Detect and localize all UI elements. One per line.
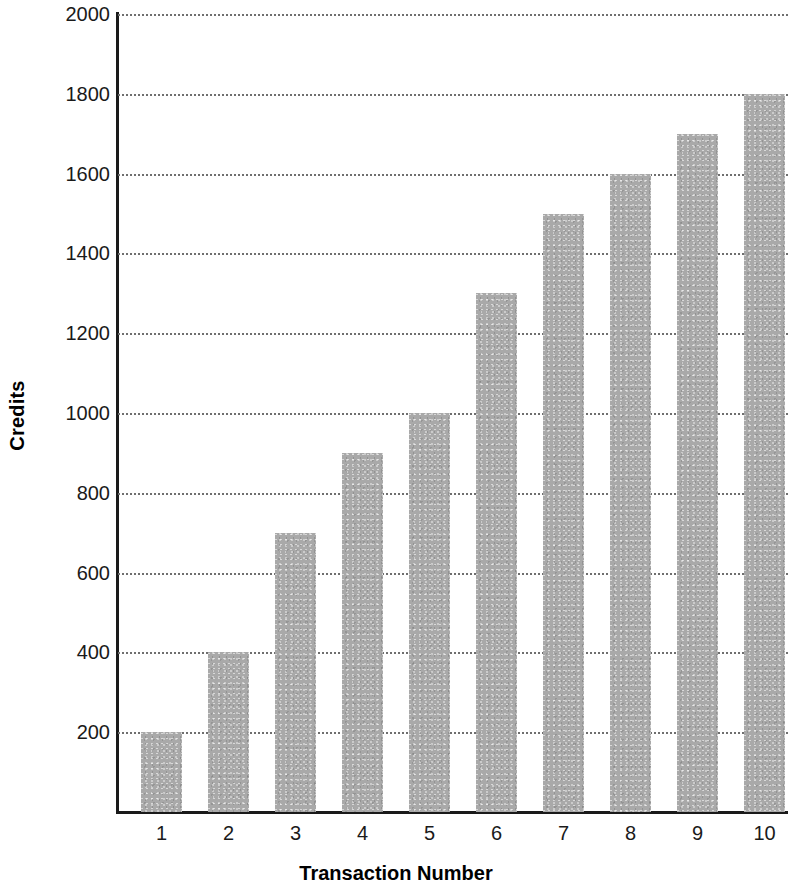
y-axis-tick-label: 400 (24, 641, 110, 664)
y-axis-tick-label: 1000 (24, 402, 110, 425)
y-axis-tick-label: 1800 (24, 82, 110, 105)
x-axis-tick-label: 8 (625, 822, 636, 845)
x-axis-title: Transaction Number (0, 862, 792, 885)
y-axis-tick-label: 600 (24, 561, 110, 584)
bars-layer (118, 14, 788, 812)
x-axis-tick-label: 6 (491, 822, 502, 845)
bar (543, 214, 584, 813)
x-axis-tick-label: 1 (156, 822, 167, 845)
x-axis-tick-label: 7 (558, 822, 569, 845)
x-axis-tick-labels: 12345678910 (118, 822, 788, 856)
y-axis-tick-label: 1600 (24, 162, 110, 185)
x-axis-tick-label: 4 (357, 822, 368, 845)
x-axis-tick-label: 2 (223, 822, 234, 845)
x-axis-tick-label: 3 (290, 822, 301, 845)
y-axis-tick-label: 2000 (24, 3, 110, 26)
y-axis-tick-labels: 200400600800100012001400160018002000 (20, 0, 110, 896)
bar (677, 134, 718, 812)
y-axis-tick-label: 800 (24, 481, 110, 504)
bar-chart: Credits 20040060080010001200140016001800… (0, 0, 792, 896)
bar (476, 293, 517, 812)
bar (610, 174, 651, 812)
y-axis-tick-label: 1400 (24, 242, 110, 265)
bar (141, 732, 182, 812)
bar (208, 652, 249, 812)
bar (744, 94, 785, 812)
bar (342, 453, 383, 812)
bar (409, 413, 450, 812)
y-axis-tick-label: 200 (24, 721, 110, 744)
bar (275, 533, 316, 812)
x-axis-tick-label: 5 (424, 822, 435, 845)
x-axis-tick-label: 9 (692, 822, 703, 845)
x-axis-tick-label: 10 (753, 822, 775, 845)
y-axis-tick-label: 1200 (24, 322, 110, 345)
